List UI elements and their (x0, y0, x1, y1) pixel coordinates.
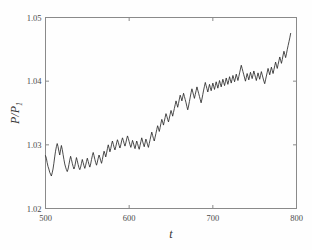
y-tick-label: 1.03 (27, 140, 42, 150)
x-tick-label: 600 (123, 213, 136, 223)
svg-text:P/P1: P/P1 (8, 102, 24, 125)
y-axis-title: P/P1 (8, 102, 24, 125)
y-tick-label: 1.02 (27, 204, 42, 214)
y-axis-tick-labels: 1.021.031.041.05 (27, 13, 43, 214)
x-axis-title: t (169, 227, 173, 241)
y-axis-title-subscript: 1 (15, 102, 24, 106)
y-axis-title-main: P/P (8, 105, 22, 125)
data-series-line (46, 33, 291, 176)
y-axis-ticks (46, 18, 297, 209)
y-tick-label: 1.05 (27, 13, 42, 23)
x-tick-label: 800 (290, 213, 303, 223)
figure-container: 500600700800 1.021.031.041.05 t P/P1 (0, 0, 312, 250)
y-tick-label: 1.04 (27, 76, 43, 86)
x-tick-label: 700 (206, 213, 219, 223)
line-chart: 500600700800 1.021.031.041.05 t P/P1 (0, 0, 312, 250)
x-axis-ticks (46, 18, 297, 209)
x-axis-tick-labels: 500600700800 (39, 213, 303, 223)
x-tick-label: 500 (39, 213, 52, 223)
plot-frame (46, 18, 297, 209)
